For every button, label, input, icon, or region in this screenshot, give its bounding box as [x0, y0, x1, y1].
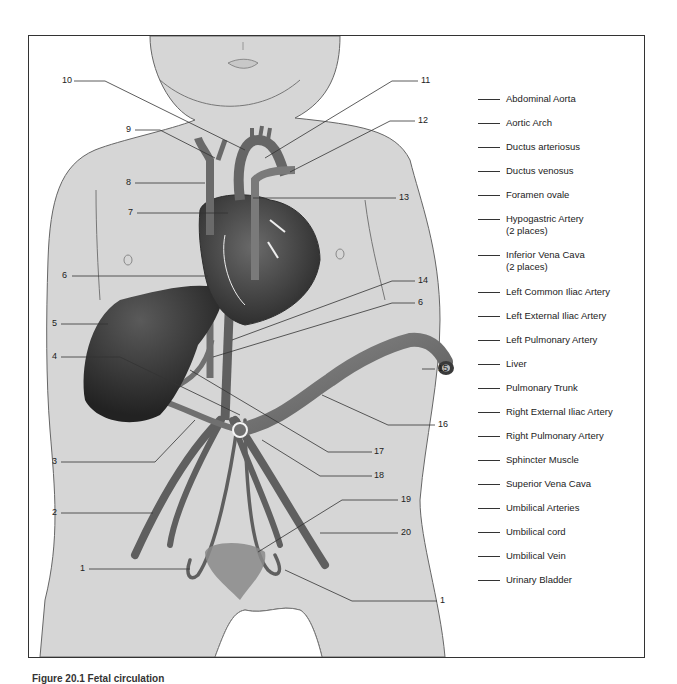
answer-blank[interactable] — [478, 364, 500, 365]
callout-5: 5 — [52, 319, 57, 328]
callout-6a: 6 — [62, 271, 67, 280]
answer-blank[interactable] — [478, 255, 500, 256]
legend-item: Right Pulmonary Artery — [478, 430, 604, 442]
answer-blank[interactable] — [478, 171, 500, 172]
figure-caption: Figure 20.1 Fetal circulation — [32, 673, 164, 684]
callout-15: 15 — [438, 364, 448, 373]
legend-item: Ductus arteriosus — [478, 141, 580, 153]
answer-blank[interactable] — [478, 292, 500, 293]
answer-blank[interactable] — [478, 532, 500, 533]
legend-item: Umbilical cord — [478, 526, 566, 538]
legend-item: Umbilical Vein — [478, 550, 566, 562]
callout-20: 20 — [401, 528, 411, 537]
callout-7: 7 — [128, 208, 133, 217]
legend-item: Umbilical Arteries — [478, 502, 579, 514]
legend-item: Left Pulmonary Artery — [478, 334, 597, 346]
legend-item: Left Common Iliac Artery — [478, 286, 610, 298]
answer-blank[interactable] — [478, 412, 500, 413]
legend-item: Aortic Arch — [478, 117, 552, 129]
callout-12: 12 — [418, 116, 428, 125]
callout-16: 16 — [438, 420, 448, 429]
callout-11: 11 — [421, 76, 430, 85]
answer-blank[interactable] — [478, 436, 500, 437]
legend-item: Superior Vena Cava — [478, 478, 591, 490]
callout-1b: 1 — [440, 596, 445, 605]
answer-blank[interactable] — [478, 195, 500, 196]
legend-item: Left External Iliac Artery — [478, 310, 606, 322]
answer-blank[interactable] — [478, 460, 500, 461]
callout-17: 17 — [374, 447, 384, 456]
legend-item: Hypogastric Artery(2 places) — [478, 213, 584, 237]
legend-item: Foramen ovale — [478, 189, 569, 201]
callout-13: 13 — [399, 193, 409, 202]
callout-3: 3 — [52, 457, 57, 466]
callout-10: 10 — [62, 76, 72, 85]
legend-item: Right External Iliac Artery — [478, 406, 613, 418]
legend-item: Liver — [478, 358, 527, 370]
answer-blank[interactable] — [478, 340, 500, 341]
callout-8: 8 — [126, 178, 131, 187]
legend-item: Sphincter Muscle — [478, 454, 579, 466]
answer-blank[interactable] — [478, 99, 500, 100]
answer-blank[interactable] — [478, 219, 500, 220]
answer-blank[interactable] — [478, 508, 500, 509]
callout-14: 14 — [418, 276, 428, 285]
legend-item: Ductus venosus — [478, 165, 574, 177]
answer-blank[interactable] — [478, 556, 500, 557]
legend-item: Inferior Vena Cava(2 places) — [478, 249, 585, 273]
answer-blank[interactable] — [478, 388, 500, 389]
callout-19: 19 — [401, 495, 411, 504]
answer-blank[interactable] — [478, 316, 500, 317]
callout-18: 18 — [374, 471, 384, 480]
legend-item: Urinary Bladder — [478, 574, 572, 586]
callout-2: 2 — [52, 508, 57, 517]
answer-blank[interactable] — [478, 484, 500, 485]
legend-item: Pulmonary Trunk — [478, 382, 578, 394]
callout-9: 9 — [126, 125, 131, 134]
answer-blank[interactable] — [478, 580, 500, 581]
callout-1a: 1 — [80, 564, 85, 573]
callout-6b: 6 — [418, 298, 423, 307]
legend-item: Abdominal Aorta — [478, 93, 576, 105]
answer-blank[interactable] — [478, 147, 500, 148]
answer-blank[interactable] — [478, 123, 500, 124]
callout-4: 4 — [52, 352, 57, 361]
